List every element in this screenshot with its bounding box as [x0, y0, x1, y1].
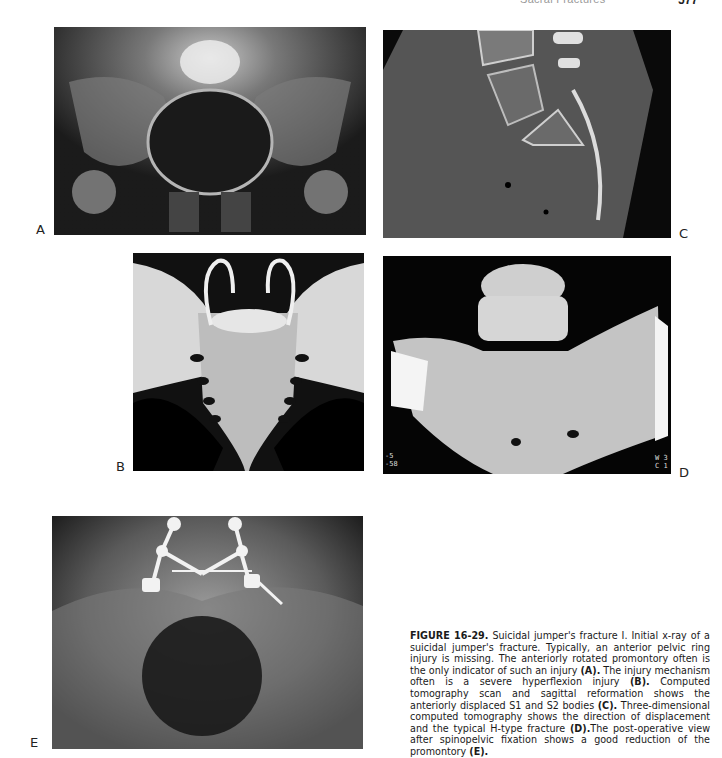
running-head-title: Sacral Fractures: [520, 0, 606, 5]
ct-annotation-left: -5 -58 15 77: [385, 452, 398, 474]
page-number: 577: [678, 0, 698, 7]
figure-panel-a-xray: [54, 27, 366, 235]
panel-label-d: D: [679, 465, 689, 480]
figure-number: FIGURE 16-29.: [410, 630, 488, 641]
figure-panel-c-ct-sagittal: [383, 30, 671, 238]
ct-annotation-right: W 3 C 1: [655, 454, 668, 470]
panel-label-e: E: [30, 735, 38, 750]
figure-panel-d-3d-ct: -5 -58 15 77 W 3 C 1: [383, 256, 671, 474]
panel-label-a: A: [36, 222, 45, 237]
figure-panel-e-postop-xray: [52, 516, 363, 749]
running-head: Sacral Fractures 577: [0, 0, 722, 7]
panel-label-c: C: [679, 226, 688, 241]
figure-caption: FIGURE 16-29. Suicidal jumper's fracture…: [410, 630, 710, 758]
figure-panel-b-illustration: [133, 253, 364, 471]
panel-label-b: B: [116, 459, 125, 474]
